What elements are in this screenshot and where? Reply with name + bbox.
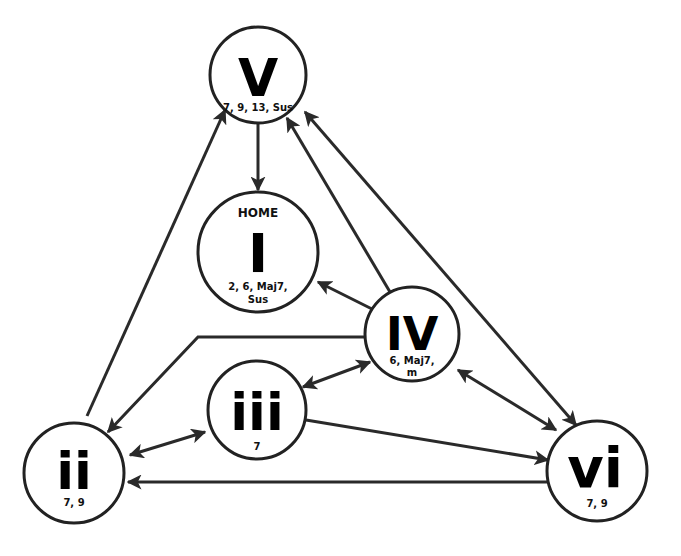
node-iii-extensions: 7 xyxy=(254,441,261,452)
edge-iii-IV-bidirectional xyxy=(303,362,370,387)
node-vi-extensions: 7, 9 xyxy=(586,498,607,509)
node-IV-extensions-line1: 6, Maj7, xyxy=(389,355,434,366)
node-I: HOME I 2, 6, Maj7, Sus xyxy=(198,192,318,312)
node-vi-numeral: vi xyxy=(567,435,623,500)
node-IV-numeral: IV xyxy=(386,307,439,361)
node-iii-numeral: iii xyxy=(230,382,283,442)
node-V: V 7, 9, 13, Sus xyxy=(210,27,306,123)
edge-ii-iii-bidirectional xyxy=(130,432,205,455)
edge-IV-vi-bidirectional xyxy=(458,370,556,430)
edge-IV-to-I xyxy=(318,282,378,312)
node-ii-extensions: 7, 9 xyxy=(63,497,84,508)
node-I-numeral: I xyxy=(248,222,268,285)
node-ii-numeral: ii xyxy=(56,441,92,501)
edge-iii-to-vi xyxy=(306,420,548,460)
node-I-home-label: HOME xyxy=(238,206,278,220)
node-I-extensions-line2: Sus xyxy=(248,294,268,305)
node-V-extensions: 7, 9, 13, Sus xyxy=(223,102,293,113)
node-vi: vi 7, 9 xyxy=(547,421,647,521)
node-I-extensions-line1: 2, 6, Maj7, xyxy=(228,281,287,292)
node-iii: iii 7 xyxy=(208,361,306,459)
node-IV: IV 6, Maj7, m xyxy=(365,287,459,381)
node-IV-extensions-line2: m xyxy=(407,367,417,378)
node-ii: ii 7, 9 xyxy=(24,423,124,523)
edges xyxy=(87,110,576,482)
edge-vi-V-bidirectional xyxy=(305,112,576,425)
node-V-numeral: V xyxy=(238,48,278,108)
chord-diagram: V 7, 9, 13, Sus HOME I 2, 6, Maj7, Sus I… xyxy=(0,0,681,556)
